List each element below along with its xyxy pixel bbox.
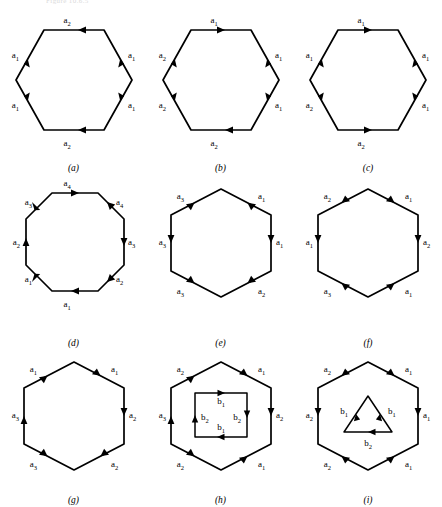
edge-label-i-upper-right: a1 [405,364,412,376]
inner-triangle-outline-i [344,396,392,432]
edge-label-c-upper-right: a1 [422,50,429,62]
panel-caption-h: (h) [147,495,294,505]
hexagon-outline-h [171,362,271,470]
edge-label-i-lower-left: a2 [324,459,331,471]
edge-label-d-top: a4 [63,178,71,190]
hexagon-outline-f [318,189,418,297]
edge-label-a-top: a2 [63,15,70,27]
diagram-e: a1 a1 a2 a3 a3 a3 [151,175,291,330]
diagram-b: a1 a1 a1 a2 a2 a2 [151,8,291,158]
figure-panel-i: a1 a1 a1 a2 a2 a2 b1 b1 b2 (i) [294,350,442,507]
edge-label-d-upper-right: a4 [116,197,124,209]
edge-label-e-left: a3 [158,237,165,249]
edge-label-g-lower-left: a3 [29,459,36,471]
inner-edge-label-i-left: b1 [340,406,348,418]
edge-label-b-top: a1 [210,15,217,27]
edge-label-d-lower-left: a1 [24,274,31,286]
panel-caption-c: (c) [294,163,442,173]
diagram-f: a1 a2 a1 a3 a1 a2 [298,175,438,330]
panel-caption-g: (g) [0,495,147,505]
edge-label-i-right: a1 [423,410,430,422]
figure-panel-b: a1 a1 a1 a2 a2 a2 (b) [147,8,294,175]
edge-label-d-right: a3 [128,237,135,249]
arrowheads-h [167,368,274,463]
edge-label-b-upper-left: a2 [158,50,165,62]
arrowheads-c [318,27,418,134]
arrowheads-f [315,195,422,290]
inner-edge-label-h-right: b2 [233,412,241,424]
edge-label-g-left: a3 [11,410,18,422]
figure-page: Figure 10.6.5 a2 a1 a1 a2 [0,0,442,507]
edge-label-h-lower-right: a1 [258,459,265,471]
edge-label-g-right: a2 [129,410,136,422]
hexagon-outline-a [16,30,132,130]
hexagon-outline-g [24,362,124,470]
inner-edge-label-h-top: b1 [217,396,225,408]
arrowheads-e [167,203,274,283]
panel-caption-e: (e) [147,338,294,348]
figure-panel-h: a1 a2 a1 a2 a3 a2 b1 b2 b1 b2 (h) [147,350,294,507]
edge-label-f-right: a2 [423,237,430,249]
figure-panel-c: a1 a1 a1 a2 a2 a1 (c) [294,8,442,175]
edge-label-a-upper-left: a1 [11,50,18,62]
edge-label-f-upper-right: a1 [405,191,412,203]
diagram-h: a1 a2 a1 a2 a3 a2 b1 b2 b1 b2 [151,350,291,490]
hexagon-outline-e [171,189,271,297]
edge-label-a-lower-right: a1 [128,100,135,112]
edge-label-b-upper-right: a1 [275,50,282,62]
edge-label-f-lower-left: a3 [324,286,331,298]
figure-panel-grid: a2 a1 a1 a2 a1 a1 (a) [0,8,442,507]
edge-label-c-lower-left: a2 [306,100,313,112]
diagram-i: a1 a1 a1 a2 a2 a2 b1 b1 b2 [298,350,438,490]
page-header-text: Figure 10.6.5 [46,0,89,5]
edge-label-h-left: a3 [158,410,165,422]
edge-label-e-lower-left: a3 [176,286,183,298]
arrowheads-d [22,190,127,295]
edge-label-d-lower-right: a2 [116,274,123,286]
hexagon-outline-b [163,30,279,130]
figure-panel-g: a1 a2 a2 a3 a3 a1 (g) [0,350,147,507]
edge-label-e-lower-right: a2 [258,286,265,298]
edge-label-c-lower-right: a1 [422,100,429,112]
edge-label-g-upper-left: a1 [29,364,36,376]
inner-edge-label-i-right: b1 [388,406,396,418]
edge-label-b-lower-left: a2 [158,100,165,112]
arrowheads-a [23,27,123,134]
figure-panel-d: a4 a4 a3 a2 a1 a1 a2 a3 (d) [0,175,147,350]
edge-label-b-bottom: a2 [210,138,217,150]
hexagon-outline-c [310,30,426,130]
diagram-c: a1 a1 a1 a2 a2 a1 [298,8,438,158]
edge-label-h-right: a2 [276,410,283,422]
edge-label-h-lower-left: a2 [176,459,183,471]
edge-label-g-lower-right: a2 [111,459,118,471]
edge-label-f-lower-right: a1 [405,286,412,298]
panel-caption-b: (b) [147,163,294,173]
edge-label-a-bottom: a2 [63,138,70,150]
panel-caption-f: (f) [294,338,442,348]
edge-label-e-right: a1 [276,237,283,249]
edge-label-c-bottom: a2 [357,138,364,150]
edge-label-f-upper-left: a2 [324,191,331,203]
edge-label-d-bottom: a1 [63,299,70,311]
arrowheads-b [170,27,270,134]
edge-label-e-upper-right: a1 [258,191,265,203]
edge-label-d-left: a2 [12,237,19,249]
figure-panel-e: a1 a1 a2 a3 a3 a3 (e) [147,175,294,350]
diagram-g: a1 a2 a2 a3 a3 a1 [4,350,144,490]
edge-label-i-lower-right: a1 [405,459,412,471]
figure-panel-a: a2 a1 a1 a2 a1 a1 (a) [0,8,147,175]
edge-label-h-upper-right: a1 [258,364,265,376]
diagram-a: a2 a1 a1 a2 a1 a1 [4,8,144,158]
edge-label-h-upper-left: a2 [176,364,183,376]
hexagon-outline-i [318,362,418,470]
panel-caption-i: (i) [294,495,442,505]
figure-panel-f: a1 a2 a1 a3 a1 a2 (f) [294,175,442,350]
inner-edge-label-h-left: b2 [201,412,209,424]
edge-label-c-top: a1 [357,15,364,27]
edge-label-g-upper-right: a1 [111,364,118,376]
panel-caption-a: (a) [0,163,147,173]
edge-label-i-upper-left: a2 [324,364,331,376]
edge-label-c-upper-left: a1 [306,50,313,62]
edge-label-a-lower-left: a1 [11,100,18,112]
edge-label-b-lower-right: a1 [275,100,282,112]
